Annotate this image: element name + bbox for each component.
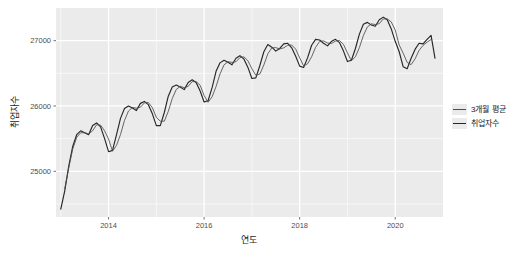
legend-key-employment (452, 118, 467, 129)
legend-label-moving-average: 3개월 평균 (471, 104, 506, 115)
legend-item-employment[interactable]: 취업자수 (452, 118, 506, 129)
legend-item-moving-average[interactable]: 3개월 평균 (452, 104, 506, 115)
employment-timeseries-chart: 2014201620182020250002600027000 취업자수 연도 (0, 0, 528, 265)
svg-text:27000: 27000 (30, 36, 51, 45)
svg-text:2016: 2016 (196, 221, 213, 230)
svg-text:2020: 2020 (387, 221, 404, 230)
legend-label-employment: 취업자수 (471, 118, 499, 129)
legend-key-moving-average (452, 104, 467, 115)
svg-text:26000: 26000 (30, 102, 51, 111)
y-axis-title: 취업자수 (10, 96, 20, 128)
plot-panel-background (56, 8, 443, 217)
chart-legend: 3개월 평균 취업자수 (452, 104, 506, 129)
svg-text:25000: 25000 (30, 167, 51, 176)
svg-text:2014: 2014 (100, 221, 117, 230)
x-axis-title: 연도 (241, 235, 257, 245)
svg-text:2018: 2018 (291, 221, 308, 230)
chart-figure: 2014201620182020250002600027000 취업자수 연도 … (0, 0, 528, 265)
